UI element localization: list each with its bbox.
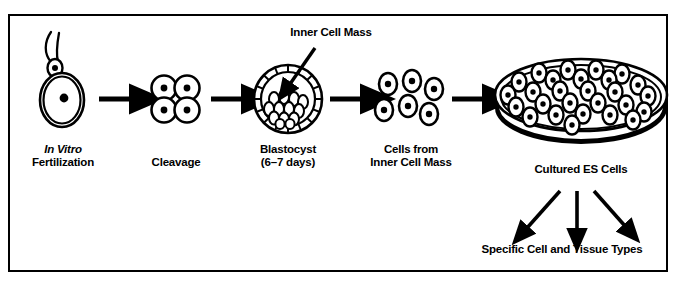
sperm-and-egg-icon [40,32,84,127]
differentiation-arrows [527,191,625,230]
stage-label-blastocyst: Blastocyst (6–7 days) [232,143,344,169]
petri-dish-icon [495,59,667,144]
stage-label-cleavage: Cleavage [128,156,224,169]
stage-label-cultured-es-cells: Cultured ES Cells [503,163,659,176]
outcome-label-tissue-types: Specific Cell and Tissue Types [455,243,669,256]
stage-label-icm-cells: Cells from Inner Cell Mass [352,143,470,169]
dissociated-cells-icon [375,70,443,125]
blastocyst-icon [254,65,322,133]
callout-label-inner-cell-mass: Inner Cell Mass [266,26,396,39]
stage-label-fertilization: In Vitro Fertilization [2,143,124,169]
four-cell-embryo-icon [152,76,200,123]
